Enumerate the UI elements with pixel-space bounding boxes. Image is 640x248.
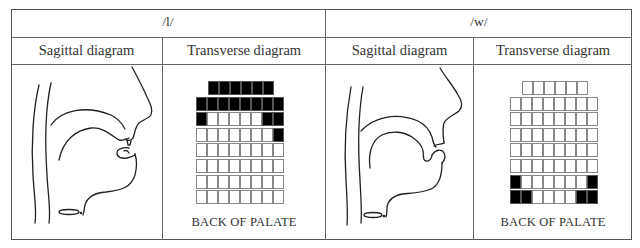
no-contact-cell (576, 97, 587, 111)
palate-row (510, 159, 598, 173)
contact-cell (252, 81, 263, 95)
contact-cell (521, 190, 532, 204)
contact-cell (510, 175, 521, 189)
no-contact-cell (544, 81, 555, 95)
no-contact-cell (251, 190, 262, 204)
contact-cell (587, 175, 598, 189)
no-contact-cell (240, 128, 251, 142)
no-contact-cell (218, 143, 229, 157)
palate-row (196, 112, 284, 126)
no-contact-cell (565, 112, 576, 126)
no-contact-cell (262, 175, 273, 189)
no-contact-cell (555, 81, 566, 95)
no-contact-cell (262, 159, 273, 173)
no-contact-cell (587, 159, 598, 173)
palate-row (196, 143, 284, 157)
palate-row (510, 97, 598, 111)
contact-cell (273, 112, 284, 126)
no-contact-cell (218, 112, 229, 126)
no-contact-cell (521, 159, 532, 173)
no-contact-cell (229, 190, 240, 204)
palate-row (196, 175, 284, 189)
contact-cell (218, 97, 229, 111)
no-contact-cell (196, 175, 207, 189)
no-contact-cell (554, 159, 565, 173)
no-contact-cell (543, 112, 554, 126)
no-contact-cell (532, 112, 543, 126)
no-contact-cell (543, 97, 554, 111)
no-contact-cell (521, 128, 532, 142)
no-contact-cell (262, 190, 273, 204)
palate-row (510, 112, 598, 126)
no-contact-cell (521, 143, 532, 157)
caption-back-of-palate-l: BACK OF PALATE (163, 215, 325, 230)
no-contact-cell (251, 128, 262, 142)
contact-cell (262, 112, 273, 126)
no-contact-cell (576, 112, 587, 126)
no-contact-cell (218, 175, 229, 189)
transverse-header-w: Transverse diagram (474, 42, 632, 59)
sagittal-diagram-w (326, 65, 473, 240)
no-contact-cell (262, 128, 273, 142)
no-contact-cell (543, 175, 554, 189)
no-contact-cell (554, 175, 565, 189)
no-contact-cell (522, 81, 533, 95)
caption-back-of-palate-w: BACK OF PALATE (474, 215, 632, 230)
no-contact-cell (532, 159, 543, 173)
no-contact-cell (510, 159, 521, 173)
palate-row (196, 128, 284, 142)
contact-cell (587, 190, 598, 204)
no-contact-cell (240, 112, 251, 126)
no-contact-cell (240, 159, 251, 173)
no-contact-cell (565, 190, 576, 204)
contact-cell (208, 81, 219, 95)
contact-cell (219, 81, 230, 95)
no-contact-cell (510, 97, 521, 111)
header-divider (11, 37, 632, 38)
no-contact-cell (196, 159, 207, 173)
contact-cell (240, 97, 251, 111)
no-contact-cell (207, 175, 218, 189)
no-contact-cell (196, 128, 207, 142)
no-contact-cell (532, 143, 543, 157)
contact-cell (230, 81, 241, 95)
contact-cell (263, 81, 274, 95)
no-contact-cell (251, 175, 262, 189)
contact-cell (510, 190, 521, 204)
no-contact-cell (543, 143, 554, 157)
palate-row (196, 159, 284, 173)
no-contact-cell (565, 175, 576, 189)
no-contact-cell (207, 112, 218, 126)
contact-cell (196, 97, 207, 111)
no-contact-cell (543, 159, 554, 173)
no-contact-cell (273, 175, 284, 189)
no-contact-cell (532, 190, 543, 204)
palate-row (510, 175, 598, 189)
contact-cell (262, 97, 273, 111)
no-contact-cell (587, 128, 598, 142)
no-contact-cell (207, 159, 218, 173)
no-contact-cell (521, 97, 532, 111)
no-contact-cell (510, 143, 521, 157)
no-contact-cell (229, 175, 240, 189)
no-contact-cell (576, 128, 587, 142)
no-contact-cell (251, 143, 262, 157)
no-contact-cell (554, 143, 565, 157)
no-contact-cell (521, 175, 532, 189)
contact-cell (196, 112, 207, 126)
no-contact-cell (510, 112, 521, 126)
no-contact-cell (577, 81, 588, 95)
no-contact-cell (543, 128, 554, 142)
no-contact-cell (273, 143, 284, 157)
no-contact-cell (229, 143, 240, 157)
no-contact-cell (251, 159, 262, 173)
no-contact-cell (576, 175, 587, 189)
no-contact-cell (543, 190, 554, 204)
contact-cell (207, 97, 218, 111)
contact-cell (273, 97, 284, 111)
no-contact-cell (532, 175, 543, 189)
palate-row (522, 81, 588, 95)
no-contact-cell (240, 190, 251, 204)
no-contact-cell (218, 190, 229, 204)
no-contact-cell (251, 112, 262, 126)
